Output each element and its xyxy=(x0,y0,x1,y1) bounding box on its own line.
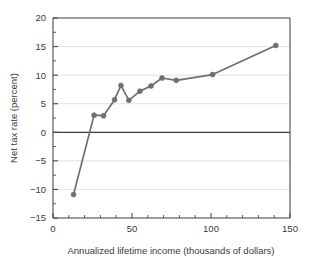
x-tick-label: 0 xyxy=(50,223,55,234)
data-point xyxy=(92,113,97,118)
y-tick-label: 0 xyxy=(41,127,46,138)
data-point xyxy=(126,98,131,103)
y-tick-label: 10 xyxy=(35,70,46,81)
data-point xyxy=(137,89,142,94)
data-point xyxy=(112,97,117,102)
y-tick-label: 5 xyxy=(41,98,46,109)
y-tick-label: −5 xyxy=(35,155,46,166)
y-tick-label: −15 xyxy=(30,212,46,223)
data-point xyxy=(210,72,215,77)
x-tick-label: 150 xyxy=(282,223,298,234)
net-tax-rate-line-chart: 20151050−5−10−15 050100150 Annualized li… xyxy=(0,0,317,262)
data-point xyxy=(101,113,106,118)
chart-figure: 20151050−5−10−15 050100150 Annualized li… xyxy=(0,0,317,262)
chart-background xyxy=(0,0,317,262)
x-tick-label: 50 xyxy=(127,223,138,234)
data-point xyxy=(273,43,278,48)
data-point xyxy=(148,84,153,89)
data-point xyxy=(174,78,179,83)
data-point xyxy=(71,192,76,197)
y-tick-label: −10 xyxy=(30,184,46,195)
x-axis-title: Annualized lifetime income (thousands of… xyxy=(68,245,275,256)
data-point xyxy=(118,83,123,88)
y-tick-label: 20 xyxy=(35,12,46,23)
y-axis-title: Net tax rate (percent) xyxy=(8,73,19,163)
y-tick-label: 15 xyxy=(35,41,46,52)
x-tick-label: 100 xyxy=(203,223,219,234)
data-point xyxy=(160,76,165,81)
